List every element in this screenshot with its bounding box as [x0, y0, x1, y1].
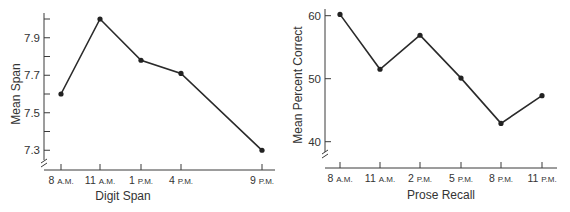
data-point	[138, 58, 143, 63]
x-tick-label: 11 P.M.	[527, 172, 556, 184]
digit-span-chart: 7.37.57.77.9 8 A.M.11 A.M.1 P.M.4 P.M.9 …	[9, 13, 275, 203]
x-tick-label: 8 P.M.	[489, 172, 513, 184]
data-point	[417, 33, 422, 38]
x-tick-label: 1 P.M.	[129, 174, 153, 186]
data-line	[340, 14, 542, 123]
y-tick-label: 7.9	[24, 32, 40, 44]
x-tick-label: 9 P.M.	[250, 174, 274, 186]
x-tick-label: 8 A.M.	[327, 172, 352, 184]
x-axis-label: Digit Span	[95, 189, 150, 203]
x-tick-label: 5 P.M.	[449, 172, 473, 184]
data-point	[539, 93, 544, 98]
y-axis-label: Mean Percent Correct	[291, 26, 305, 144]
data-point	[458, 75, 463, 80]
x-tick-label: 11 A.M.	[365, 172, 395, 184]
y-tick-label: 7.5	[24, 107, 40, 119]
data-line	[61, 19, 262, 150]
x-tick-label: 2 P.M.	[408, 172, 432, 184]
x-tick-label: 8 A.M.	[48, 174, 73, 186]
data-point	[58, 91, 63, 96]
data-point	[259, 148, 264, 153]
y-tick-label: 60	[308, 10, 321, 22]
y-tick-label: 40	[308, 136, 321, 148]
y-tick-label: 7.3	[24, 144, 40, 156]
y-tick-label: 7.7	[24, 69, 40, 81]
x-tick-label: 4 P.M.	[169, 174, 193, 186]
data-point	[337, 12, 342, 17]
axis-break-mark	[41, 159, 47, 167]
data-point	[498, 121, 503, 126]
data-point	[377, 67, 382, 72]
x-axis-label: Prose Recall	[407, 188, 475, 202]
y-tick-label: 50	[308, 73, 321, 85]
data-point	[178, 71, 183, 76]
figure: 7.37.57.77.9 8 A.M.11 A.M.1 P.M.4 P.M.9 …	[0, 0, 570, 212]
prose-recall-chart: 405060 8 A.M.11 A.M.2 P.M.5 P.M.8 P.M.11…	[291, 9, 557, 202]
x-tick-label: 11 A.M.	[85, 174, 115, 186]
y-axis-label: Mean Span	[9, 63, 23, 124]
data-point	[97, 16, 102, 21]
